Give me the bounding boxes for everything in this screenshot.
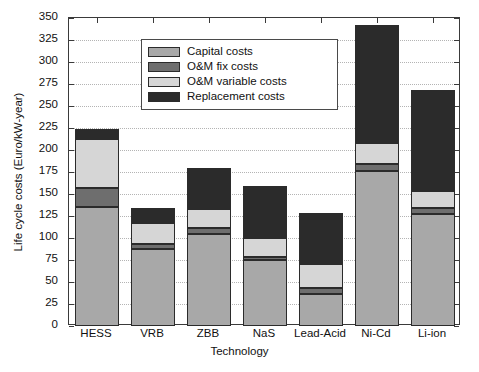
legend-item-om-variable-costs: O&M variable costs [148,74,331,89]
gridline [69,150,459,151]
bar-segment [299,213,343,264]
bar-segment [187,168,231,209]
y-tick-label: 125 [2,209,58,221]
legend: Capital costs O&M fix costs O&M variable… [141,39,338,110]
legend-label-capital-costs: Capital costs [187,46,253,58]
bar-segment [411,214,455,326]
y-tick [454,62,459,63]
legend-swatch-replacement-costs [148,92,180,102]
y-tick [69,172,74,173]
y-tick [454,326,459,327]
x-tick-label: VRB [140,328,164,340]
y-tick-label: 250 [2,99,58,111]
bar-segment [355,143,399,164]
x-axis-tick-labels: HESSVRBZBBNaSLead-AcidNi-CdLi-ion [68,328,460,344]
y-tick [69,304,74,305]
y-tick [69,84,74,85]
bar-vrb [131,208,175,326]
y-tick-label: 275 [2,77,58,89]
bar-segment [75,207,119,326]
bar-segment [131,208,175,223]
legend-item-capital-costs: Capital costs [148,44,331,59]
x-tick-label: HESS [80,328,111,340]
y-tick-label: 200 [2,143,58,155]
bar-lead-acid [299,213,343,326]
y-tick-label: 175 [2,165,58,177]
y-tick-label: 100 [2,231,58,243]
y-tick [69,40,74,41]
x-tick [377,18,378,23]
legend-swatch-capital-costs [148,47,180,57]
y-tick [69,282,74,283]
bar-segment [355,25,399,143]
legend-label-om-fix-costs: O&M fix costs [187,61,258,73]
bar-ni-cd [355,25,399,326]
y-tick-label: 0 [2,319,58,331]
bar-segment [131,244,175,249]
bar-segment [243,186,287,238]
y-tick [454,84,459,85]
y-tick-label: 225 [2,121,58,133]
y-tick-label: 50 [2,275,58,287]
y-tick-label: 150 [2,187,58,199]
bar-segment [131,249,175,326]
x-tick-label: NaS [253,328,275,340]
x-tick [209,18,210,23]
bar-segment [299,288,343,294]
legend-label-replacement-costs: Replacement costs [187,91,285,103]
y-tick [69,238,74,239]
bar-segment [299,294,343,326]
bar-segment [75,139,119,187]
y-tick [69,194,74,195]
y-tick-label: 325 [2,33,58,45]
x-tick [153,18,154,23]
y-tick [69,216,74,217]
x-tick-label: Ni-Cd [361,328,390,340]
legend-swatch-om-variable-costs [148,77,180,87]
life-cycle-costs-chart: 0255075100125150175200225250275300325350… [0,0,479,372]
y-tick [69,18,74,19]
bar-segment [243,260,287,326]
bar-segment [187,234,231,326]
y-tick [69,128,74,129]
y-tick [454,18,459,19]
bar-segment [187,228,231,233]
x-tick [433,18,434,23]
bar-li-ion [411,90,455,326]
x-tick [97,18,98,23]
y-tick-label: 350 [2,11,58,23]
plot-area: Capital costs O&M fix costs O&M variable… [68,17,460,325]
y-tick-label: 25 [2,297,58,309]
y-axis-title: Life cycle costs (Euro/kW-year) [12,22,24,322]
legend-swatch-om-fix-costs [148,62,180,72]
bar-zbb [187,168,231,326]
bar-segment [75,188,119,207]
bar-nas [243,186,287,326]
bar-segment [355,171,399,326]
x-tick-label: Li-ion [418,328,446,340]
gridline [69,172,459,173]
bar-segment [243,238,287,257]
legend-item-om-fix-costs: O&M fix costs [148,59,331,74]
x-tick [321,18,322,23]
y-tick [69,62,74,63]
bar-segment [187,209,231,228]
bar-segment [75,129,119,140]
y-tick [454,40,459,41]
bar-segment [411,208,455,214]
bar-segment [243,257,287,260]
y-tick [69,106,74,107]
y-tick-label: 300 [2,55,58,67]
x-tick-label: Lead-Acid [294,328,346,340]
x-axis-title: Technology [0,345,479,357]
bar-segment [131,223,175,244]
bar-hess [75,129,119,326]
x-tick-label: ZBB [197,328,219,340]
bar-segment [411,191,455,208]
legend-item-replacement-costs: Replacement costs [148,89,331,104]
y-tick [69,260,74,261]
bar-segment [299,264,343,288]
x-tick [265,18,266,23]
gridline [69,128,459,129]
bar-segment [411,90,455,191]
